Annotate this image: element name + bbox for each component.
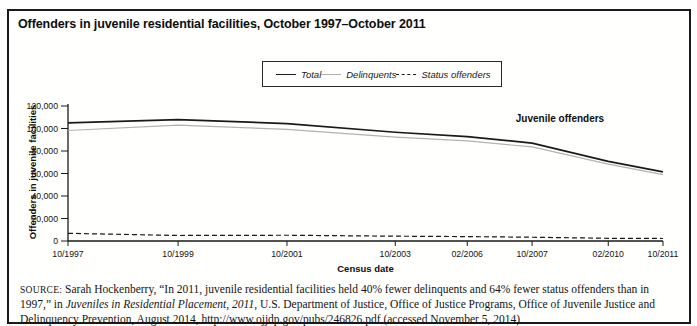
x-tick-label: 10/1999 xyxy=(162,249,194,259)
series-line-total xyxy=(68,120,663,172)
figure-frame: Offenders in juvenile residential facili… xyxy=(7,9,691,324)
x-tick-label: 10/2007 xyxy=(516,249,548,259)
legend-item-status-offenders: Status offenders xyxy=(396,69,490,80)
x-tick-label: 10/2011 xyxy=(648,249,679,259)
figure-scan: Offenders in juvenile residential facili… xyxy=(0,0,697,326)
legend-label: Total xyxy=(301,69,321,80)
legend-line-swatch-total xyxy=(276,74,296,75)
x-tick-label: 02/2010 xyxy=(593,249,625,259)
chart-title: Offenders in juvenile residential facili… xyxy=(18,17,426,31)
legend: TotalDelinquentsStatus offenders xyxy=(262,61,502,87)
legend-line-swatch-status-offenders xyxy=(396,74,416,75)
x-tick-label: 10/2001 xyxy=(271,249,303,259)
source-label: SOURCE: xyxy=(20,285,62,295)
y-tick-label: 0 xyxy=(53,236,58,246)
series-line-delinquents xyxy=(68,125,663,175)
chart-canvas: 020,00040,00060,00080,000100,000120,0001… xyxy=(9,95,693,281)
x-tick-label: 02/2006 xyxy=(452,249,484,259)
x-tick-label: 10/1997 xyxy=(52,249,84,259)
x-tick-label: 10/2003 xyxy=(380,249,412,259)
y-axis-title: Offenders in juvenile facilities xyxy=(27,90,43,254)
x-axis-title: Census date xyxy=(337,263,394,274)
series-line-status-offenders xyxy=(68,233,663,238)
legend-label: Status offenders xyxy=(421,69,490,80)
source-note: SOURCE: Sarah Hockenberry, “In 2011, juv… xyxy=(20,282,682,326)
legend-item-total: Total xyxy=(276,69,321,80)
annotation-juvenile-offenders: Juvenile offenders xyxy=(516,113,605,124)
source-text-segment: Juveniles in Residential Placement, 2011 xyxy=(66,298,255,310)
legend-label: Delinquents xyxy=(346,69,396,80)
legend-line-swatch-delinquents xyxy=(321,74,341,75)
legend-item-delinquents: Delinquents xyxy=(321,69,396,80)
x-axis: 10/199710/199910/200110/200302/200610/20… xyxy=(52,241,678,274)
